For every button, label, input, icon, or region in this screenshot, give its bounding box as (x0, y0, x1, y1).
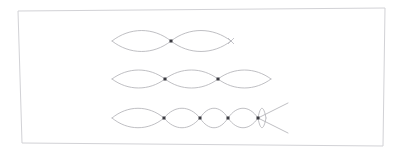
node-marker-3-4 (257, 117, 260, 120)
node-marker-2-1 (164, 78, 167, 81)
node-marker-2-2 (217, 78, 220, 81)
node-marker-3-1 (163, 117, 166, 120)
canvas-background (0, 0, 400, 156)
standing-wave-diagram (0, 0, 400, 156)
node-marker-3-2 (199, 117, 202, 120)
diagram-canvas (0, 0, 400, 156)
node-marker-1-1 (170, 40, 173, 43)
node-marker-3-3 (227, 117, 230, 120)
